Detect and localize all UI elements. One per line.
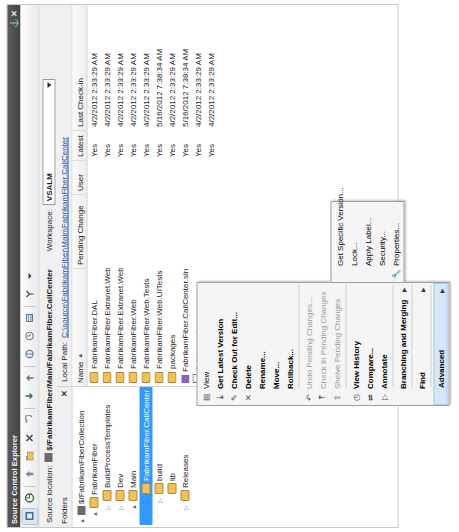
tree-node[interactable]: lib (165, 387, 178, 525)
expand-triangle-icon[interactable]: ▷ (155, 496, 162, 504)
pin-icon[interactable]: ⚓ (9, 18, 18, 28)
menu-item[interactable]: ◷View History (348, 283, 362, 405)
view-icon: ▤ (201, 389, 210, 405)
folders-pane-header: Folders ✕ (56, 387, 72, 527)
file-name-label: FabrikamFiber.Extranet.Web (102, 268, 111, 369)
cell-checkin: 4/2/2012 2:33:29 AM (141, 44, 150, 130)
table-row[interactable]: FabrikamFiber.WebYes4/2/2012 2:33:29 AM (126, 5, 139, 386)
collapse-triangle-icon[interactable]: ▲ (91, 510, 97, 518)
cell-checkin: 4/2/2012 2:33:29 AM (167, 44, 176, 130)
check-in-icon[interactable] (21, 370, 38, 387)
expand-triangle-icon[interactable]: ▷ (142, 496, 149, 504)
tree-node[interactable]: ▷FabrikamFiber.CallCenter (139, 387, 152, 525)
column-header-name[interactable]: Name▲ (72, 268, 86, 386)
history-icon[interactable] (21, 328, 38, 345)
tree-node[interactable]: ▲$/FabrikamFiberCollection (74, 387, 87, 525)
expand-triangle-icon[interactable]: ▷ (181, 503, 188, 511)
table-row[interactable]: FabrikamFiber.Web.TestsYes4/2/2012 2:33:… (139, 5, 152, 386)
tree-node[interactable]: ▷build (152, 387, 165, 525)
menu-item-label: Apply Label... (363, 206, 372, 266)
menu-item[interactable]: ▤View (198, 283, 212, 405)
folders-close-icon[interactable]: ✕ (59, 390, 68, 397)
menu-item[interactable]: ⤓Get Latest Version (212, 283, 226, 405)
sort-ascending-icon: ▲ (76, 353, 82, 359)
get-latest-icon[interactable] (21, 388, 38, 405)
folder-icon (167, 372, 176, 383)
menu-item[interactable]: Find▶ (414, 283, 428, 405)
collapse-triangle-icon[interactable]: ▲ (130, 503, 136, 511)
menu-item[interactable]: Apply Label... (360, 202, 374, 282)
folder-icon (141, 372, 150, 383)
menu-item[interactable]: 🔧Properties... (388, 202, 402, 282)
get-latest-icon: ⤓ (214, 389, 224, 405)
local-path-link[interactable]: C:\source\FabrikamFiber\Main\FabrikamFib… (59, 137, 68, 338)
cell-name: FabrikamFiber.Web.UITests (154, 268, 163, 386)
folder-icon (102, 490, 111, 501)
advanced-submenu[interactable]: Get Specific Version...Lock...Apply Labe… (330, 201, 404, 283)
menu-item[interactable]: Rollback... (282, 283, 296, 405)
menu-item-label: Delete (243, 287, 252, 389)
tree-node[interactable]: ▷Dev (113, 387, 126, 525)
menu-item[interactable]: ✎Check Out for Edit... (226, 283, 240, 405)
tree-node-label: lib (167, 473, 176, 481)
home-icon[interactable] (21, 490, 38, 507)
cell-latest: Yes (141, 130, 150, 160)
table-row[interactable]: packagesYes4/2/2012 2:33:29 AM (165, 5, 178, 386)
checkin-icon: ⤒ (317, 389, 327, 405)
menu-item[interactable]: Rename... (254, 283, 268, 405)
menu-item[interactable]: Security... (374, 202, 388, 282)
tree-node-label: $/FabrikamFiberCollection (76, 411, 85, 504)
column-header-latest[interactable]: Latest (72, 130, 86, 160)
tree-node-label: BuildProcessTemplates (102, 405, 111, 488)
tree-node[interactable]: ▷Releases (178, 387, 191, 525)
menu-item[interactable]: Get Specific Version... (332, 202, 346, 282)
up-folder-icon[interactable] (21, 466, 38, 483)
tree-node[interactable]: ▲Main (126, 387, 139, 525)
table-row[interactable]: FabrikamFiber.Extranet.WebYes4/2/2012 2:… (100, 5, 113, 386)
menu-item-label: Branching and Merging (398, 296, 407, 389)
cell-name: packages (167, 268, 176, 386)
solution-icon (181, 375, 189, 383)
table-row[interactable]: FabrikamFiber.CallCenter.slnYes5/16/2012… (178, 5, 191, 386)
tree-node[interactable]: ▷BuildProcessTemplates (100, 387, 113, 525)
column-header-checkin[interactable]: Last Check-in (72, 44, 86, 130)
new-folder-icon[interactable] (21, 448, 38, 465)
menu-item[interactable]: Advanced▶ (433, 283, 447, 405)
compare-icon[interactable] (21, 346, 38, 363)
menu-item-label: Get Specific Version... (335, 187, 344, 266)
branch-icon[interactable] (21, 286, 38, 303)
menu-item[interactable]: Branching and Merging▶ (395, 283, 409, 405)
toolbar-overflow-chevron-down-icon[interactable] (21, 268, 38, 285)
refresh-icon[interactable] (21, 508, 38, 525)
menu-item[interactable]: ⇄Compare... (362, 283, 376, 405)
column-header-pending[interactable]: Pending Change (72, 194, 86, 268)
expand-triangle-icon[interactable]: ▷ (103, 503, 110, 511)
menu-item[interactable]: ▷Annotate (376, 283, 390, 405)
close-icon[interactable]: ✕ (9, 8, 18, 18)
table-row[interactable]: FabrikamFiber.Web.UITestsYes5/16/2012 7:… (152, 5, 165, 386)
menu-item-label: Check Out for Edit... (229, 287, 238, 389)
properties-icon[interactable] (21, 310, 38, 327)
source-location-value-group[interactable]: $/FabrikamFiber/Main/FabrikamFiber.CallC… (44, 269, 53, 461)
menu-item[interactable]: Move... (268, 283, 282, 405)
tree-node[interactable]: ▲FabrikamFiber (87, 387, 100, 525)
column-header-user[interactable]: User (72, 160, 86, 194)
menu-item: ↶Undo Pending Changes... (301, 283, 315, 405)
folder-icon (89, 497, 98, 508)
menu-item: ⇪Shelve Pending Changes (329, 283, 343, 405)
table-row[interactable]: FabrikamFiber.Extranet.Web.TestsYes4/2/2… (113, 5, 126, 386)
menu-item[interactable]: ✕Delete (240, 283, 254, 405)
collapse-triangle-icon[interactable]: ▲ (78, 517, 84, 525)
menu-item[interactable]: Lock... (346, 202, 360, 282)
folder-tree: ▲$/FabrikamFiberCollection▲FabrikamFiber… (72, 387, 191, 527)
cell-latest: Yes (180, 130, 189, 160)
cell-name: FabrikamFiber.Web.Tests (141, 268, 150, 386)
delete-icon[interactable] (21, 430, 38, 447)
workspace-select[interactable]: VSALM (42, 79, 55, 205)
server-folder-icon (44, 453, 52, 462)
undo-icon[interactable] (21, 412, 38, 429)
tree-node-label: Dev (115, 474, 124, 488)
table-row[interactable]: FabrikamFiber.DALYes4/2/2012 2:33:29 AM (87, 5, 100, 386)
expand-triangle-icon[interactable]: ▷ (116, 503, 123, 511)
context-menu[interactable]: ▤View⤓Get Latest Version✎Check Out for E… (196, 282, 449, 406)
